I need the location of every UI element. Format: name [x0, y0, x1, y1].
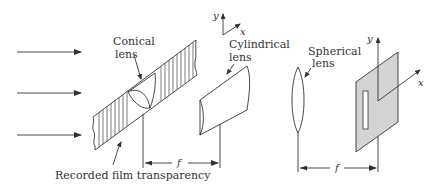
output-plane-with-slit: y x: [356, 33, 424, 152]
cylindrical-lens-label-2: lens: [229, 51, 252, 64]
focal-label-2: f: [334, 162, 341, 173]
optical-diagram: Conical lens Recorded film transparency …: [0, 0, 439, 187]
cylindrical-lens-pointer: [227, 64, 234, 74]
incident-light-rays: [17, 52, 81, 135]
conical-lens-label-2: lens: [115, 48, 138, 61]
plane-axis-y: y: [366, 33, 373, 44]
film-pointer: [113, 142, 121, 165]
cylindrical-lens: [200, 66, 250, 135]
slit: [363, 91, 368, 129]
small-coordinate-axes: y x: [212, 10, 246, 37]
focal-distance-1: f: [143, 114, 220, 168]
focal-label-1: f: [176, 157, 183, 168]
cylindrical-lens-label-1: Cylindrical: [229, 38, 290, 51]
small-axis-x: x: [240, 26, 246, 37]
conical-lens-label-1: Conical: [113, 35, 155, 48]
plane-axis-x: x: [418, 77, 424, 88]
small-axis-y: y: [212, 10, 219, 21]
spherical-lens-label-2: lens: [312, 57, 335, 70]
spherical-lens: [292, 67, 304, 133]
spherical-lens-pointer: [305, 68, 311, 77]
film-label: Recorded film transparency: [55, 169, 211, 182]
conical-lens: [128, 73, 155, 108]
